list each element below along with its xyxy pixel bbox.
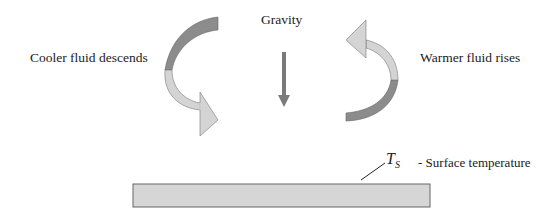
cooler-descending-arrow — [165, 17, 218, 136]
surface-temperature-symbol: TS — [386, 150, 400, 170]
heated-surface-plate — [133, 184, 430, 207]
gravity-arrow-icon — [278, 52, 290, 107]
surface-temperature-label: - Surface temperature — [418, 155, 531, 171]
cooler-fluid-label: Cooler fluid descends — [30, 50, 148, 66]
ts-subscript: S — [395, 159, 400, 170]
gravity-label: Gravity — [261, 12, 302, 28]
convection-diagram — [0, 0, 558, 218]
warmer-rising-arrow — [346, 20, 398, 127]
warmer-fluid-label: Warmer fluid rises — [420, 50, 520, 66]
surface-leader-line — [361, 163, 385, 180]
ts-symbol: T — [386, 150, 395, 167]
